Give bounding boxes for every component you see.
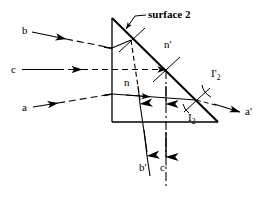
angle-I2-label: I2 (188, 112, 195, 126)
angle-I2-prime-label: I'2 (211, 68, 220, 82)
angle-I2-subscript: 2 (192, 117, 196, 126)
ray-b-prime-label: b' (139, 162, 146, 173)
ray-a-incident-solid (33, 103, 58, 107)
ray-c-prime-label: c' (160, 162, 167, 173)
ray-b-reflected-arrow (138, 86, 140, 104)
ray-b-incident-solid (32, 32, 66, 39)
ray-b-exit-tail (147, 156, 150, 176)
surface-1-entry-ticks (104, 47, 112, 96)
surface-2-leader (126, 15, 146, 29)
ray-a-exit-arrow (214, 104, 240, 112)
refractive-index-n-prime-label: n' (164, 39, 171, 50)
ray-c-label: c (11, 64, 16, 75)
ray-a-label: a (22, 102, 27, 113)
ray-a-incident-dashed (58, 94, 112, 103)
ray-a-inside (112, 94, 196, 100)
ray-a-prime-label: a' (245, 106, 252, 117)
diagram-canvas (0, 0, 261, 198)
ray-b-label: b (22, 25, 28, 36)
refractive-index-n-label: n (124, 77, 130, 88)
angle-I2-prime-subscript: 2 (217, 73, 221, 82)
ray-b-exit-arrow (144, 130, 147, 156)
ray-a-path (33, 94, 240, 112)
ray-a-inside-arrow (126, 95, 150, 97)
optical-ray-diagram-figure: surface 2 b c a a' b' c' n n' I2 I'2 (0, 0, 261, 198)
surface-2-label: surface 2 (148, 9, 190, 20)
entry-tick-a (104, 94, 112, 96)
